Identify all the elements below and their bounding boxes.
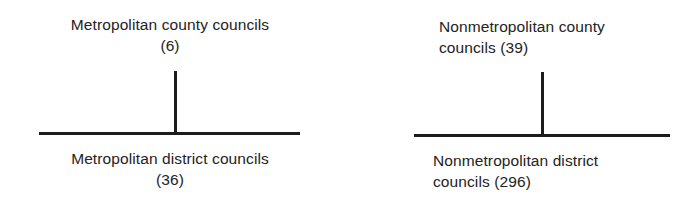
metropolitan-district-councils-name: Metropolitan district councils (25, 148, 315, 169)
metropolitan-district-councils-count: (36) (25, 169, 315, 190)
metropolitan-district-councils-label: Metropolitan district councils (36) (25, 148, 315, 190)
nonmetropolitan-district-councils-line2: councils (296) (433, 171, 693, 192)
nonmetropolitan-district-councils-label: Nonmetropolitan district councils (296) (433, 150, 693, 192)
nonmetropolitan-district-councils-line1: Nonmetropolitan district (433, 150, 693, 171)
nonmetropolitan-county-councils-line2: councils (39) (439, 37, 699, 58)
metropolitan-tier-divider (39, 132, 300, 135)
nonmetropolitan-tier-divider (414, 134, 670, 137)
nonmetropolitan-county-councils-line1: Nonmetropolitan county (439, 16, 699, 37)
metropolitan-county-councils-label: Metropolitan county councils (6) (25, 14, 315, 56)
metropolitan-connector-stem (174, 71, 177, 133)
metropolitan-county-councils-name: Metropolitan county councils (25, 14, 315, 35)
nonmetropolitan-county-councils-label: Nonmetropolitan county councils (39) (439, 16, 699, 58)
metropolitan-county-councils-count: (6) (25, 35, 315, 56)
nonmetropolitan-connector-stem (541, 72, 544, 135)
